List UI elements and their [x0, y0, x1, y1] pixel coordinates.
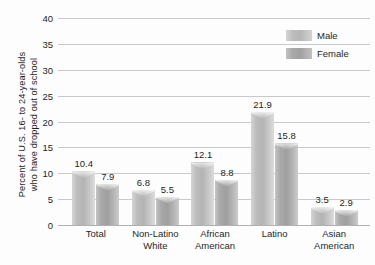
- legend-item-female[interactable]: Female: [286, 48, 349, 59]
- y-tick-35: 35: [42, 38, 53, 49]
- y-tick-25: 25: [42, 90, 53, 101]
- x-label-total: Total: [66, 228, 126, 252]
- bar-nonlatino-male[interactable]: 6.8: [132, 190, 155, 225]
- gridline-0-baseline: 0: [58, 225, 370, 226]
- x-label-asian-american-line-1: Asian: [304, 228, 364, 240]
- bar-asian-female[interactable]: 2.9: [335, 210, 358, 225]
- legend-label-female: Female: [317, 48, 349, 59]
- bar-african-male[interactable]: 12.1: [191, 162, 214, 225]
- y-tick-15: 15: [42, 142, 53, 153]
- x-label-non-latino-white: Non-Latino White: [126, 228, 186, 252]
- x-label-asian-american-line-2: American: [304, 240, 364, 252]
- y-tick-10: 10: [42, 168, 53, 179]
- legend-swatch-female-icon: [286, 48, 312, 59]
- bar-value-nonlatino-male: 6.8: [137, 177, 150, 188]
- y-tick-30: 30: [42, 64, 53, 75]
- legend-swatch-male-icon: [286, 30, 312, 41]
- y-tick-20: 20: [42, 116, 53, 127]
- bar-value-total-male: 10.4: [75, 158, 94, 169]
- bar-group-african-american: 12.1 8.8: [185, 18, 245, 225]
- bar-african-female[interactable]: 8.8: [215, 180, 238, 226]
- y-tick-5: 5: [48, 194, 53, 205]
- bar-wrap-total-female: 7.9: [96, 18, 119, 225]
- bar-latino-female[interactable]: 15.8: [275, 143, 298, 225]
- y-axis-title-line-1: Percent of U.S. 16- to 24-year-olds: [16, 52, 29, 197]
- y-axis-title: Percent of U.S. 16- to 24-year-olds who …: [10, 17, 46, 232]
- bar-total-male[interactable]: 10.4: [72, 171, 95, 225]
- y-tick-40: 40: [42, 13, 53, 24]
- bar-wrap-nonlatino-female: 5.5: [156, 18, 179, 225]
- bar-wrap-latino-male: 21.9: [251, 18, 274, 225]
- bar-wrap-african-female: 8.8: [215, 18, 238, 225]
- bar-value-african-female: 8.8: [220, 167, 233, 178]
- legend-label-male: Male: [317, 30, 338, 41]
- bar-wrap-total-male: 10.4: [72, 18, 95, 225]
- bar-wrap-african-male: 12.1: [191, 18, 214, 225]
- bar-latino-male[interactable]: 21.9: [251, 112, 274, 225]
- dropout-rate-bar-chart: Percent of U.S. 16- to 24-year-olds who …: [0, 0, 375, 265]
- x-label-african-american-line-1: African: [185, 228, 245, 240]
- bar-asian-male[interactable]: 3.5: [311, 207, 334, 225]
- x-label-asian-american: Asian American: [304, 228, 364, 252]
- bar-total-female[interactable]: 7.9: [96, 184, 119, 225]
- bar-wrap-nonlatino-male: 6.8: [132, 18, 155, 225]
- bar-value-nonlatino-female: 5.5: [161, 184, 174, 195]
- y-tick-0: 0: [48, 220, 53, 231]
- bar-group-non-latino-white: 6.8 5.5: [126, 18, 186, 225]
- x-label-non-latino-white-line-1: Non-Latino: [126, 228, 186, 240]
- x-axis-labels: Total Non-Latino White African American …: [58, 228, 370, 252]
- bar-value-total-female: 7.9: [101, 171, 114, 182]
- x-label-african-american-line-2: American: [185, 240, 245, 252]
- bar-nonlatino-female[interactable]: 5.5: [156, 197, 179, 226]
- bar-group-total: 10.4 7.9: [66, 18, 126, 225]
- x-label-latino: Latino: [245, 228, 305, 252]
- legend: Male Female: [286, 30, 349, 59]
- bar-value-asian-male: 3.5: [316, 194, 329, 205]
- bar-value-latino-male: 21.9: [253, 99, 272, 110]
- bar-value-asian-female: 2.9: [340, 197, 353, 208]
- x-label-african-american: African American: [185, 228, 245, 252]
- legend-item-male[interactable]: Male: [286, 30, 349, 41]
- x-label-non-latino-white-line-2: White: [126, 240, 186, 252]
- x-label-latino-line-1: Latino: [245, 228, 305, 240]
- y-axis-title-line-2: who have dropped out of school: [28, 58, 41, 191]
- bar-value-latino-female: 15.8: [277, 130, 296, 141]
- x-label-total-line-1: Total: [66, 228, 126, 240]
- bar-value-african-male: 12.1: [194, 149, 213, 160]
